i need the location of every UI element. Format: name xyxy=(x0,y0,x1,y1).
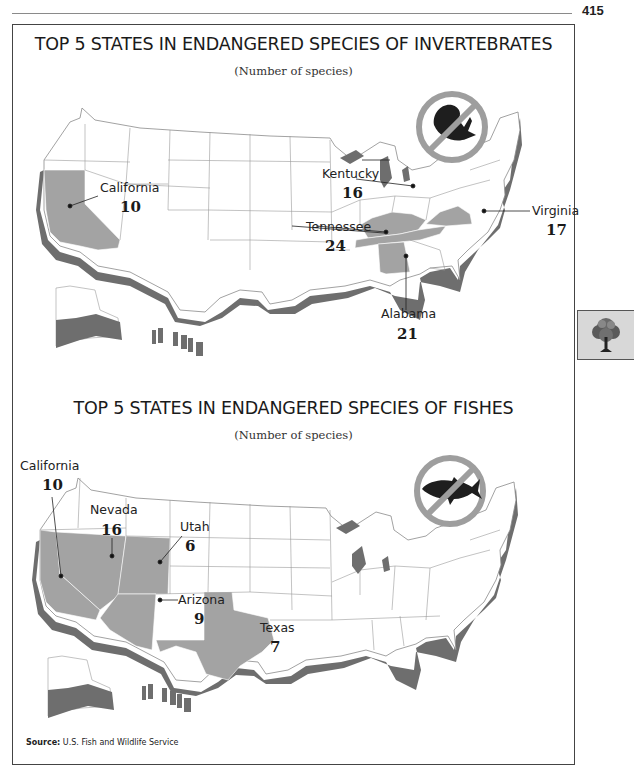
value-nevada: 16 xyxy=(101,521,122,539)
source-note: Source: U.S. Fish and Wildlife Service xyxy=(26,738,179,747)
label-arizona: Arizona xyxy=(178,592,225,607)
label-texas: Texas xyxy=(260,620,295,635)
value-utah: 6 xyxy=(185,537,195,555)
label-california-fish: California xyxy=(20,458,79,473)
leader-lines-fishes xyxy=(0,0,634,777)
source-label: Source: xyxy=(26,738,60,747)
value-california-fish: 10 xyxy=(42,476,63,494)
value-arizona: 9 xyxy=(194,610,204,628)
label-nevada: Nevada xyxy=(90,502,138,517)
value-texas: 7 xyxy=(270,638,280,656)
label-utah: Utah xyxy=(180,519,210,534)
source-text: U.S. Fish and Wildlife Service xyxy=(63,738,179,747)
